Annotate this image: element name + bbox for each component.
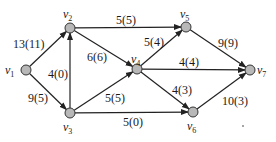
node-v6 <box>188 107 198 117</box>
node-label-v3: v3 <box>63 120 72 136</box>
edge-label-v4-v6: 4(3) <box>172 83 192 97</box>
node-label-v7: v7 <box>257 63 266 79</box>
node-v7 <box>245 65 255 75</box>
node-v1 <box>21 65 31 75</box>
edge-label-v3-v6: 5(0) <box>123 115 143 129</box>
stray-dot <box>242 125 244 127</box>
node-v3 <box>65 108 75 118</box>
node-label-v6: v6 <box>187 119 196 135</box>
edge-label-v1-v3: 9(5) <box>28 91 48 105</box>
flow-network-diagram: 13(11)9(5)4(0)5(5)6(6)5(5)5(0)5(4)4(4)4(… <box>0 0 276 142</box>
edge-label-v3-v2: 4(0) <box>48 67 68 81</box>
edge-v3-v6 <box>75 112 188 113</box>
graph-svg: 13(11)9(5)4(0)5(5)6(6)5(5)5(0)5(4)4(4)4(… <box>0 0 276 142</box>
node-v2 <box>65 23 75 33</box>
edge-label-v2-v5: 5(5) <box>116 13 136 27</box>
edge-label-v4-v7: 4(4) <box>179 55 199 69</box>
edge-label-v4-v5: 5(4) <box>144 35 164 49</box>
edge-label-v2-v4: 6(6) <box>87 50 107 64</box>
edge-v2-v5 <box>75 27 181 28</box>
edge-v4-v7 <box>142 69 245 70</box>
node-v5 <box>181 22 191 32</box>
node-label-v5: v5 <box>180 7 189 23</box>
node-label-v2: v2 <box>63 7 72 23</box>
node-label-v4: v4 <box>131 52 140 68</box>
edge-label-v3-v4: 5(5) <box>105 91 125 105</box>
edge-label-v1-v2: 13(11) <box>13 37 45 51</box>
node-label-v1: v1 <box>5 63 14 79</box>
edge-label-v5-v7: 9(9) <box>218 36 238 50</box>
edge-label-v6-v7: 10(3) <box>222 94 248 108</box>
